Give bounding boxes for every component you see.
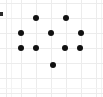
gridline-horizontal-faint: [0, 88, 103, 89]
data-point: [18, 30, 24, 36]
gridline-horizontal: [0, 93, 103, 94]
gridline-horizontal: [0, 18, 103, 19]
scatter-plot-figure: [0, 0, 103, 97]
data-point: [62, 45, 68, 51]
data-point: [77, 45, 83, 51]
data-point: [63, 15, 69, 21]
gridline-horizontal: [0, 48, 103, 49]
data-point: [33, 45, 39, 51]
data-point: [48, 30, 54, 36]
gridline-horizontal: [0, 3, 103, 4]
axis-tick-mark: [0, 12, 3, 16]
gridline-horizontal: [0, 78, 103, 79]
data-point: [50, 62, 56, 68]
data-point: [18, 45, 24, 51]
data-point: [33, 15, 39, 21]
data-point: [78, 30, 84, 36]
